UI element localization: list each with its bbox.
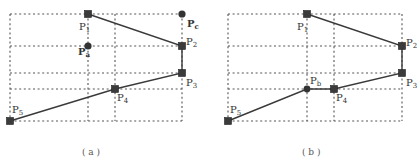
panel-a: P1 P2 P3 P4 P5 Pa Pc ( a )	[7, 10, 199, 157]
panel-b-caption: ( b )	[302, 147, 321, 157]
panel-b-grid	[228, 14, 402, 121]
panel-a-point-p1-marker	[85, 11, 92, 18]
panel-a-label-p3: P3	[186, 77, 197, 90]
panel-b-label-p2: P2	[406, 37, 417, 50]
panel-a-polyline	[10, 14, 182, 121]
panel-a-label-p2: P2	[186, 36, 197, 49]
panel-a-label-p1: P1	[79, 21, 90, 34]
panel-a-caption: ( a )	[82, 147, 100, 157]
panel-b-point-p3-marker	[399, 70, 406, 77]
panel-b-point-p5-marker	[225, 118, 232, 125]
panel-a-point-p5-marker	[7, 118, 14, 125]
panel-b-label-p4: P4	[336, 92, 348, 105]
panel-b-polyline	[228, 14, 402, 121]
panel-b-label-pb: Pb	[310, 75, 322, 88]
panel-a-point-pc-marker	[178, 10, 185, 17]
panel-a-label-p5: P5	[12, 104, 23, 117]
figure-canvas: P1 P2 P3 P4 P5 Pa Pc ( a ) P1 P2 P3	[0, 0, 419, 161]
panel-b: P1 P2 P3 P4 P5 Pb ( b )	[225, 11, 418, 158]
panel-b-point-p1-marker	[304, 11, 311, 18]
panel-b-point-p2-marker	[399, 43, 406, 50]
panel-b-point-pb-marker	[304, 86, 311, 93]
panel-a-grid	[10, 14, 182, 121]
panel-b-label-p1: P1	[297, 21, 308, 34]
panel-a-label-p4: P4	[117, 92, 129, 105]
panel-b-label-p5: P5	[230, 104, 241, 117]
panel-a-point-p3-marker	[179, 70, 186, 77]
panel-a-point-p2-marker	[179, 43, 186, 50]
panel-b-label-p3: P3	[406, 77, 417, 90]
panel-a-label-pc: Pc	[187, 18, 199, 31]
